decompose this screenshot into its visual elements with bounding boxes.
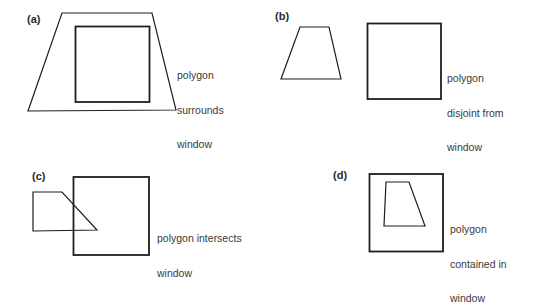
caption-c-line-2: window xyxy=(157,268,242,280)
panel-label-c: (c) xyxy=(32,170,45,182)
caption-b: polygon disjoint from window xyxy=(447,50,504,165)
caption-b-line-1: polygon xyxy=(447,73,504,85)
window-a xyxy=(76,27,150,103)
panel-label-a: (a) xyxy=(27,13,40,25)
polygon-b xyxy=(281,27,341,79)
window-d xyxy=(370,174,444,252)
panel-label-b: (b) xyxy=(275,10,289,22)
caption-a-line-3: window xyxy=(177,139,224,151)
caption-a: polygon surrounds window xyxy=(177,47,224,162)
caption-c-line-1: polygon intersects xyxy=(157,233,242,245)
window-b xyxy=(368,24,442,100)
panel-c xyxy=(33,177,149,255)
caption-b-line-3: window xyxy=(447,142,504,154)
caption-a-line-1: polygon xyxy=(177,70,224,82)
polygon-d xyxy=(384,182,425,226)
panel-a xyxy=(28,13,176,111)
caption-d: polygon contained in window xyxy=(450,201,507,306)
caption-d-line-3: window xyxy=(450,293,507,305)
caption-d-line-2: contained in xyxy=(450,259,507,271)
panel-b xyxy=(281,24,441,100)
caption-c: polygon intersects window xyxy=(157,210,242,291)
panel-label-d: (d) xyxy=(333,169,347,181)
caption-b-line-2: disjoint from xyxy=(447,108,504,120)
caption-a-line-2: surrounds xyxy=(177,105,224,117)
polygon-c xyxy=(33,192,97,231)
polygon-a xyxy=(28,13,176,111)
caption-d-line-1: polygon xyxy=(450,224,507,236)
panel-d xyxy=(370,174,444,252)
